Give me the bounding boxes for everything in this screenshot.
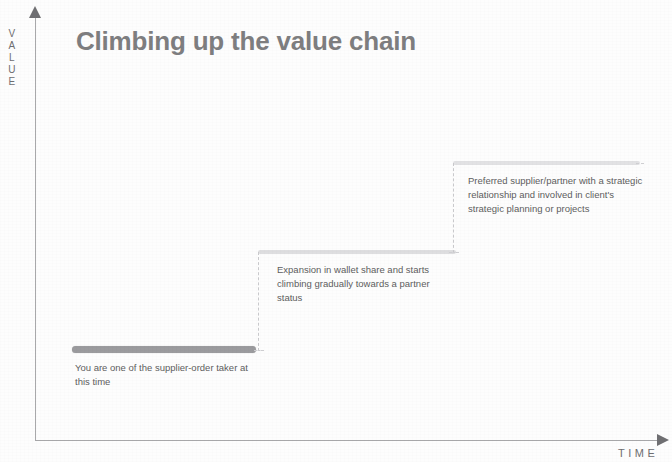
y-axis-letter: L — [4, 52, 20, 64]
step-caption-2: Expansion in wallet share and starts cli… — [277, 263, 457, 305]
step-tread-stub-2 — [449, 252, 459, 253]
step-tread-1 — [72, 346, 256, 353]
y-axis-letter: A — [4, 40, 20, 52]
y-axis-letter: U — [4, 64, 20, 76]
x-axis-label: TIME — [618, 447, 658, 459]
step-caption-3: Preferred supplier/partner with a strate… — [468, 174, 646, 216]
step-tread-stub-1 — [254, 350, 264, 351]
step-caption-1: You are one of the supplier-order taker … — [75, 361, 250, 389]
step-tread-2 — [258, 250, 456, 254]
y-axis-arrow-icon — [29, 6, 41, 18]
step-riser-1 — [258, 252, 259, 351]
y-axis-letter: E — [4, 76, 20, 88]
step-tread-stub-3 — [636, 163, 644, 164]
y-axis-letter: V — [4, 28, 20, 40]
value-chain-slide: Climbing up the value chain V A L U E TI… — [0, 0, 672, 462]
step-riser-2 — [453, 163, 454, 253]
y-axis-line — [35, 16, 36, 441]
scan-noise-overlay — [0, 0, 672, 462]
step-tread-3 — [453, 161, 640, 165]
page-title: Climbing up the value chain — [76, 26, 416, 57]
y-axis-label: V A L U E — [4, 28, 20, 88]
x-axis-arrow-icon — [657, 434, 669, 446]
x-axis-line — [35, 440, 660, 441]
